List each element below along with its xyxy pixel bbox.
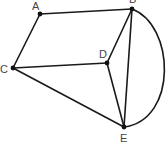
node-label-a: A [32,0,40,12]
edge-a-b [40,9,132,14]
edge-a-c [13,14,40,68]
node-label-b: B [129,0,136,5]
edge-b-e [124,9,132,127]
node-c [11,66,16,71]
node-e [122,125,127,130]
node-label-c: C [0,63,8,75]
node-label-d: D [99,48,107,60]
edge-c-e [13,68,124,127]
graph-diagram: ABCDE [0,0,168,147]
edge-d-e [107,63,124,127]
nodes [11,7,135,130]
node-d [105,61,110,66]
node-label-e: E [120,132,127,144]
edges [13,9,164,127]
edge-c-d [13,63,107,68]
node-a [38,12,43,17]
node-b [130,7,135,12]
